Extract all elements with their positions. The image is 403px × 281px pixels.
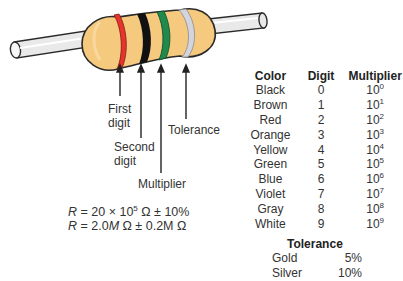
cell-color: Violet bbox=[246, 187, 295, 202]
label-first-digit-line1: First bbox=[108, 102, 131, 116]
arrow-tolerance bbox=[183, 65, 189, 119]
table-row: Black0100 bbox=[246, 83, 403, 98]
cell-digit: 0 bbox=[295, 83, 348, 98]
arrow-multiplier bbox=[158, 65, 164, 173]
tolerance-table: Gold 5% Silver 10% bbox=[272, 251, 362, 280]
cell-multiplier: 101 bbox=[347, 98, 403, 113]
formula-line-2: R = 2.0M Ω ± 0.2M Ω bbox=[68, 219, 186, 233]
cell-digit: 6 bbox=[295, 172, 348, 187]
cell-color: Orange bbox=[246, 127, 295, 142]
label-first-digit: First digit bbox=[108, 102, 131, 130]
table-row: Brown1101 bbox=[246, 98, 403, 113]
table-row: Violet7107 bbox=[246, 187, 403, 202]
formula-rest: Ω ± 10% bbox=[138, 205, 190, 219]
cell-digit: 7 bbox=[295, 187, 348, 202]
table-row: Silver 10% bbox=[272, 266, 362, 281]
table-row: Gray8108 bbox=[246, 201, 403, 216]
label-second-digit-line2: digit bbox=[114, 154, 155, 168]
label-second-digit: Second digit bbox=[114, 140, 155, 168]
cell-digit: 9 bbox=[295, 216, 348, 231]
cell-digit: 8 bbox=[295, 201, 348, 216]
cell-multiplier: 106 bbox=[347, 172, 403, 187]
label-first-digit-line2: digit bbox=[108, 116, 131, 130]
tolerance-name: Gold bbox=[272, 251, 322, 266]
header-multiplier: Multiplier bbox=[347, 68, 403, 83]
tolerance-name: Silver bbox=[272, 266, 322, 281]
formula-var: R bbox=[68, 219, 77, 233]
label-second-digit-line1: Second bbox=[114, 140, 155, 154]
table-row: White9109 bbox=[246, 216, 403, 231]
formula-eq: = 20 × 10 bbox=[77, 205, 133, 219]
cell-color: Gray bbox=[246, 201, 295, 216]
cell-multiplier: 102 bbox=[347, 113, 403, 128]
formula-eq: = 2.0 bbox=[77, 219, 109, 233]
header-color: Color bbox=[246, 68, 295, 83]
cell-color: Black bbox=[246, 83, 295, 98]
cell-color: Red bbox=[246, 113, 295, 128]
cell-multiplier: 100 bbox=[347, 83, 403, 98]
table-header-row: Color Digit Multiplier bbox=[246, 68, 403, 83]
table-row: Red2102 bbox=[246, 113, 403, 128]
cell-color: Brown bbox=[246, 98, 295, 113]
cell-multiplier: 105 bbox=[347, 157, 403, 172]
formula-end: Ω bbox=[174, 219, 187, 233]
tolerance-value: 5% bbox=[322, 251, 362, 266]
formula-var: R bbox=[68, 205, 77, 219]
cell-color: Yellow bbox=[246, 142, 295, 157]
table-row: Yellow4104 bbox=[246, 142, 403, 157]
formula-line-1: R = 20 × 105 Ω ± 10% bbox=[68, 205, 189, 219]
table-row: Blue6106 bbox=[246, 172, 403, 187]
tolerance-title: Tolerance bbox=[287, 237, 343, 251]
table-row: Gold 5% bbox=[272, 251, 362, 266]
arrow-second-digit bbox=[138, 65, 144, 138]
cell-color: Blue bbox=[246, 172, 295, 187]
cell-digit: 4 bbox=[295, 142, 348, 157]
cell-multiplier: 109 bbox=[347, 216, 403, 231]
cell-multiplier: 107 bbox=[347, 187, 403, 202]
color-code-table: Color Digit Multiplier Black0100 Brown11… bbox=[246, 68, 403, 231]
formula-unit: M bbox=[109, 219, 119, 233]
header-digit: Digit bbox=[295, 68, 348, 83]
formula-mid: Ω ± 0.2 bbox=[119, 219, 163, 233]
label-tolerance: Tolerance bbox=[168, 123, 220, 137]
cell-digit: 3 bbox=[295, 127, 348, 142]
cell-digit: 2 bbox=[295, 113, 348, 128]
cell-color: White bbox=[246, 216, 295, 231]
formula-unit: M bbox=[163, 219, 173, 233]
right-lead bbox=[208, 13, 268, 34]
label-multiplier: Multiplier bbox=[138, 177, 186, 191]
cell-multiplier: 103 bbox=[347, 127, 403, 142]
table-row: Orange3103 bbox=[246, 127, 403, 142]
cell-digit: 1 bbox=[295, 98, 348, 113]
cell-multiplier: 108 bbox=[347, 201, 403, 216]
table-row: Green5105 bbox=[246, 157, 403, 172]
arrow-first-digit bbox=[117, 65, 123, 96]
cell-color: Green bbox=[246, 157, 295, 172]
cell-digit: 5 bbox=[295, 157, 348, 172]
cell-multiplier: 104 bbox=[347, 142, 403, 157]
tolerance-value: 10% bbox=[322, 266, 362, 281]
